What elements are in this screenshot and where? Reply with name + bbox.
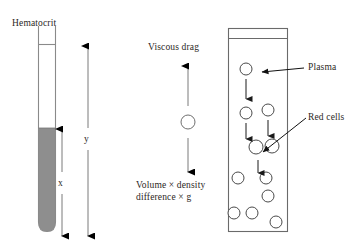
packed-red-cell-column bbox=[39, 128, 56, 232]
sedimentation-tube-group bbox=[228, 29, 306, 232]
red-cell bbox=[240, 107, 252, 119]
diagram-vector-layer bbox=[0, 0, 362, 248]
settling-particle bbox=[181, 115, 195, 129]
red-cell bbox=[262, 190, 274, 202]
hematocrit-tube-group bbox=[39, 26, 56, 232]
sedimentation-tube-outline bbox=[229, 29, 288, 232]
red-cell bbox=[249, 140, 263, 154]
red-cell bbox=[228, 207, 240, 219]
red-cell bbox=[262, 104, 274, 116]
red-cell bbox=[270, 216, 282, 228]
red-cell bbox=[240, 63, 252, 75]
red-cell bbox=[232, 172, 244, 184]
figure-canvas: Hematocrit y x Viscous drag Volume × den… bbox=[0, 0, 362, 248]
red-cell bbox=[246, 207, 258, 219]
force-balance-group bbox=[181, 66, 195, 172]
red-cell bbox=[260, 172, 272, 184]
